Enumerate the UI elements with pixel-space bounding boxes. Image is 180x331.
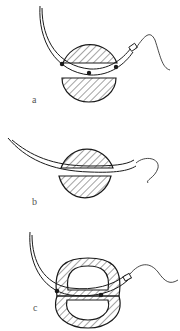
suture-thread [130, 265, 178, 283]
suture-thread [136, 158, 158, 183]
panel-a-drawing [40, 6, 170, 102]
panel-b-drawing [8, 138, 158, 198]
contact-point [99, 293, 104, 298]
tissue-lower-half [62, 78, 116, 102]
needle-outer [40, 6, 133, 75]
contact-point [114, 65, 118, 69]
tissue-lower-half [59, 176, 111, 198]
panel-label-b: b [32, 196, 37, 207]
contact-point [60, 62, 64, 66]
diagram-canvas [0, 0, 180, 331]
tissue-ring-lower [56, 296, 121, 328]
panel-label-c: c [33, 302, 37, 313]
suture-thread [136, 35, 170, 70]
tissue-upper-half [63, 45, 117, 63]
panel-c-drawing [30, 232, 178, 328]
tissue-ring-upper [56, 258, 120, 296]
panel-label-a: a [32, 94, 36, 105]
contact-point [55, 289, 60, 294]
contact-point [87, 71, 91, 75]
